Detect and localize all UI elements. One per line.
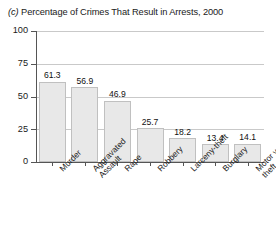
y-tick-75 <box>31 64 37 65</box>
bar-value-label: 56.9 <box>65 77 105 86</box>
x-axis-label-line: Rape <box>123 152 144 173</box>
y-tick-50 <box>31 97 37 98</box>
x-axis-category-label: Burglary <box>221 167 228 174</box>
x-tick <box>248 163 249 166</box>
x-tick <box>117 163 118 166</box>
y-tick-25 <box>31 129 37 130</box>
x-axis-label-line: Robbery <box>155 144 184 173</box>
x-axis-label-line: Assault <box>97 174 104 181</box>
x-axis-label-line: Burglary <box>220 144 249 173</box>
x-tick <box>150 163 151 166</box>
x-axis-category-label: Rape <box>123 167 130 174</box>
x-axis-label-line: theft <box>260 174 267 181</box>
x-axis-category-label: Murder <box>58 167 65 174</box>
x-axis-category-label: Motor vehicletheft <box>254 167 267 180</box>
bar-value-label: 14.1 <box>228 133 268 142</box>
x-tick <box>85 163 86 166</box>
x-axis-labels: MurderAggravatedAssaultRapeRobberyLarcen… <box>0 0 276 225</box>
y-tick-0 <box>31 162 37 163</box>
bar-value-label: 46.9 <box>97 90 137 99</box>
y-tick-100 <box>31 31 37 32</box>
x-tick <box>183 163 184 166</box>
x-axis-category-label: AggravatedAssault <box>91 167 104 180</box>
x-axis-category-label: Larceny-theft <box>189 167 196 174</box>
x-tick <box>52 163 53 166</box>
x-tick <box>215 163 216 166</box>
x-axis-label-line: Murder <box>58 148 84 174</box>
bar-chart: (c) Percentage of Crimes That Result in … <box>0 0 276 225</box>
bar-value-label: 25.7 <box>130 118 170 127</box>
x-axis-category-label: Robbery <box>156 167 163 174</box>
